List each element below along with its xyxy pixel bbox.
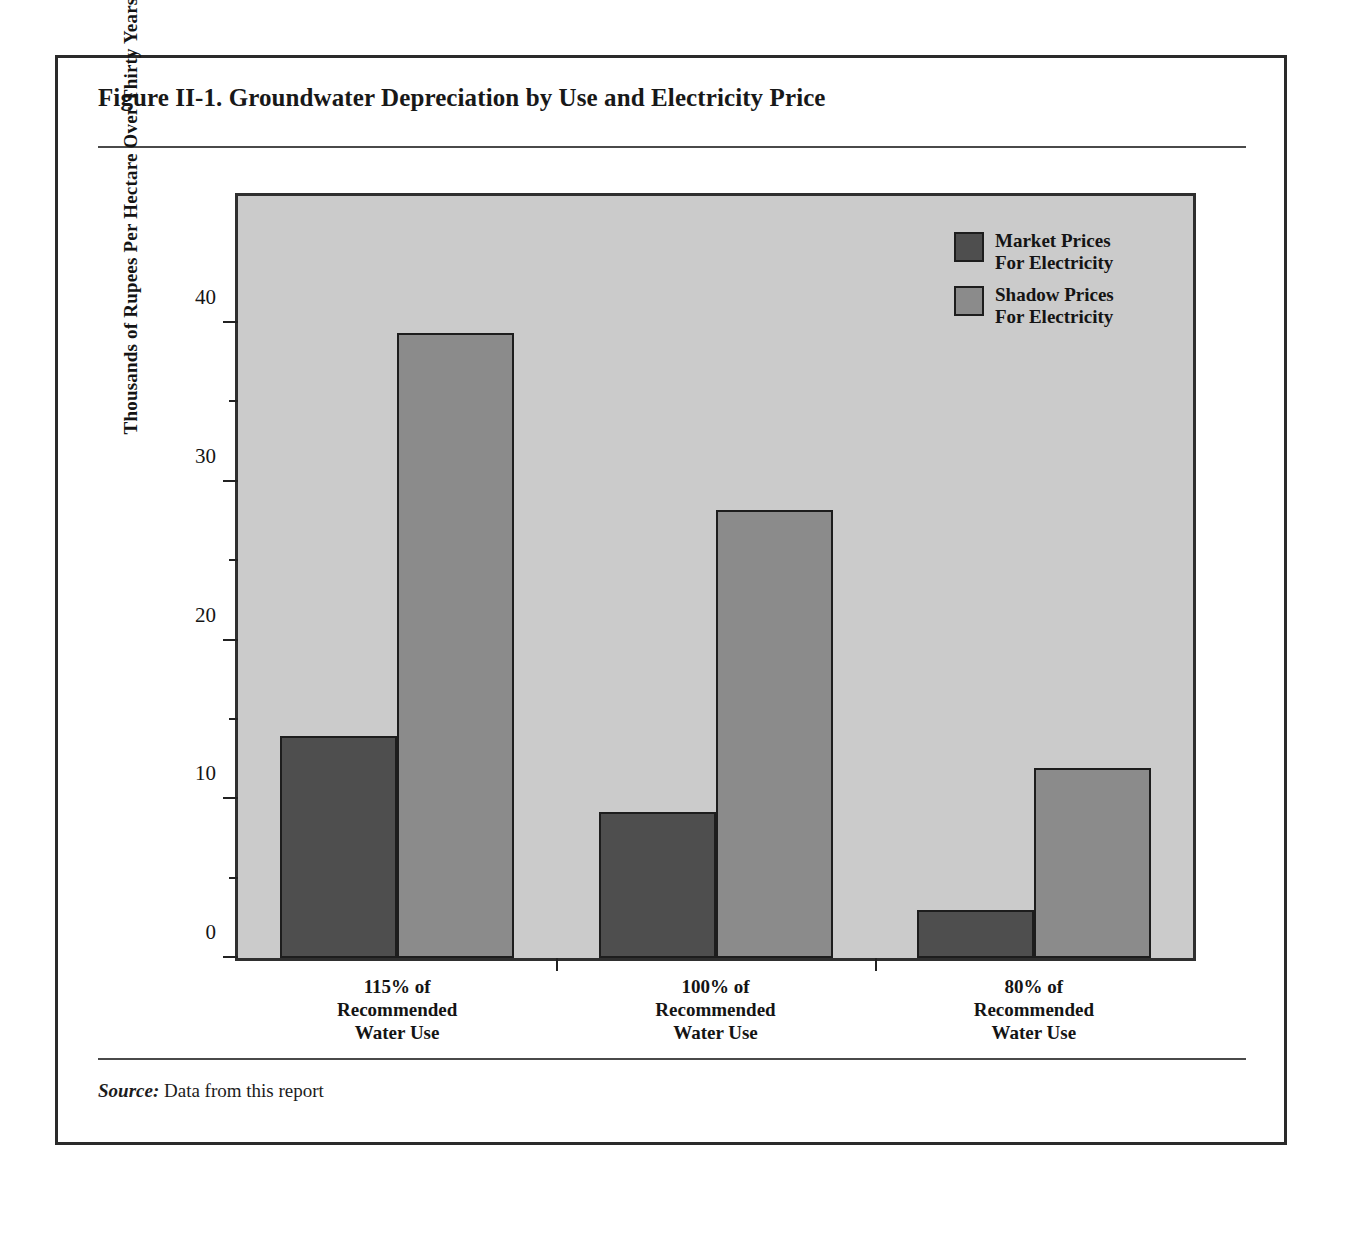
x-category-line: Water Use bbox=[267, 1021, 527, 1044]
bar-market-group-2 bbox=[599, 812, 716, 958]
y-tick-minor bbox=[229, 877, 238, 879]
source-divider bbox=[98, 1058, 1246, 1060]
x-tick bbox=[556, 958, 558, 971]
legend-label-line: Shadow Prices bbox=[995, 284, 1114, 306]
legend-label-line: For Electricity bbox=[995, 252, 1113, 274]
bar-shadow-group-2 bbox=[716, 510, 833, 958]
x-category-line: Recommended bbox=[267, 998, 527, 1021]
legend-item-shadow-prices: Shadow PricesFor Electricity bbox=[954, 284, 1169, 329]
y-tick-label: 40 bbox=[195, 285, 216, 310]
y-tick-label: 0 bbox=[206, 920, 217, 945]
y-tick-minor bbox=[229, 718, 238, 720]
plot-area: Thousands of Rupees Per Hectare Over Thi… bbox=[235, 193, 1196, 961]
figure-page: Figure II-1. Groundwater Depreciation by… bbox=[0, 0, 1347, 1244]
y-tick-major bbox=[223, 956, 238, 958]
x-category-line: 80% of bbox=[904, 975, 1164, 998]
legend-swatch-icon bbox=[954, 286, 984, 316]
legend-swatch-icon bbox=[954, 232, 984, 262]
legend-label-line: For Electricity bbox=[995, 306, 1114, 328]
legend-label: Market PricesFor Electricity bbox=[995, 230, 1113, 275]
source-label: Source: bbox=[98, 1080, 159, 1101]
x-category-line: 100% of bbox=[586, 975, 846, 998]
x-axis-category-3: 80% ofRecommendedWater Use bbox=[904, 975, 1164, 1045]
y-tick-label: 30 bbox=[195, 444, 216, 469]
y-tick-label: 10 bbox=[195, 761, 216, 786]
chart-legend: Market PricesFor ElectricityShadow Price… bbox=[954, 230, 1169, 338]
x-category-line: 115% of bbox=[267, 975, 527, 998]
bar-market-group-1 bbox=[280, 736, 397, 958]
x-category-line: Water Use bbox=[586, 1021, 846, 1044]
y-tick-major bbox=[223, 639, 238, 641]
x-category-line: Water Use bbox=[904, 1021, 1164, 1044]
y-tick-label: 20 bbox=[195, 603, 216, 628]
y-tick-minor bbox=[229, 400, 238, 402]
bar-market-group-3 bbox=[917, 910, 1034, 958]
legend-label-line: Market Prices bbox=[995, 230, 1113, 252]
bar-shadow-group-3 bbox=[1034, 768, 1151, 959]
legend-label: Shadow PricesFor Electricity bbox=[995, 284, 1114, 329]
source-text: Data from this report bbox=[159, 1080, 324, 1101]
y-tick-major bbox=[223, 797, 238, 799]
y-tick-major bbox=[223, 321, 238, 323]
y-tick-major bbox=[223, 480, 238, 482]
source-note: Source: Data from this report bbox=[98, 1080, 324, 1102]
x-axis-category-1: 115% ofRecommendedWater Use bbox=[267, 975, 527, 1045]
legend-item-market-prices: Market PricesFor Electricity bbox=[954, 230, 1169, 275]
figure-frame: Figure II-1. Groundwater Depreciation by… bbox=[55, 55, 1287, 1145]
x-category-line: Recommended bbox=[904, 998, 1164, 1021]
x-axis-category-2: 100% ofRecommendedWater Use bbox=[586, 975, 846, 1045]
x-category-line: Recommended bbox=[586, 998, 846, 1021]
bar-shadow-group-1 bbox=[397, 333, 514, 958]
y-tick-minor bbox=[229, 559, 238, 561]
bar-chart: Thousands of Rupees Per Hectare Over Thi… bbox=[58, 58, 1290, 1058]
y-axis-title: Thousands of Rupees Per Hectare Over Thi… bbox=[120, 0, 142, 496]
x-tick bbox=[875, 958, 877, 971]
